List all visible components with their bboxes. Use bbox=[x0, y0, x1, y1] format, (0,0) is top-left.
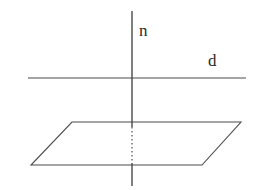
label-d: d bbox=[208, 52, 217, 69]
geometry-figure: n d bbox=[0, 0, 279, 190]
plane-parallelogram bbox=[31, 122, 241, 165]
label-n: n bbox=[139, 22, 148, 39]
